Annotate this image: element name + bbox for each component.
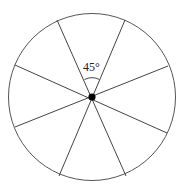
angle-label: 45° (83, 60, 100, 74)
circle-diagram: 45° (0, 0, 186, 191)
center-dot (88, 93, 95, 100)
angle-arc (85, 78, 100, 80)
